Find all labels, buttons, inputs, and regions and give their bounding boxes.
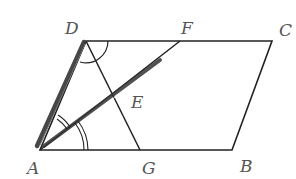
label-e: E	[131, 94, 143, 111]
label-d: D	[65, 20, 79, 37]
label-a: A	[27, 160, 39, 177]
geometry-figure: D F C E A G B	[0, 0, 296, 179]
figure-canvas	[0, 0, 296, 179]
label-g: G	[142, 160, 156, 177]
label-f: F	[181, 20, 193, 37]
label-c: C	[279, 22, 292, 39]
angle-mark-a-inner	[75, 123, 84, 150]
label-b: B	[240, 158, 253, 175]
angle-mark-a-outer	[78, 121, 88, 150]
pencil-mark-ad	[37, 42, 84, 146]
